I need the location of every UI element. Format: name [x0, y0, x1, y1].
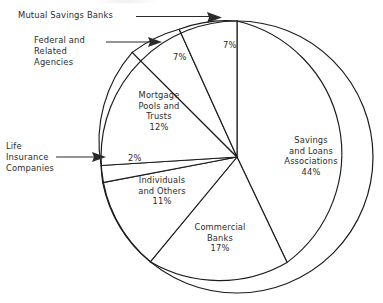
individuals-line-1: Individuals	[122, 175, 202, 186]
callout-federal-and-related-agencies: Federal and Related Agencies	[34, 35, 85, 67]
callout-federal-line-1: Federal and	[34, 35, 85, 46]
slice-label-individuals-and-others: Individuals and Others 11%	[122, 175, 202, 207]
individuals-line-2: and Others	[122, 186, 202, 197]
callout-federal-line-3: Agencies	[34, 57, 85, 68]
callout-life-line-2: Insurance	[6, 152, 54, 163]
savings-percent: 44%	[268, 167, 354, 178]
slice-label-mortgage-pools-and-trusts: Mortgage Pools and Trusts 12%	[122, 90, 196, 132]
mortgage-percent: 12%	[122, 122, 196, 133]
slice-percent-federal-and-related-agencies: 7%	[173, 52, 186, 62]
savings-line-3: Associations	[268, 156, 354, 167]
mortgage-line-2: Pools and	[122, 101, 196, 112]
commercial-line-1: Commercial	[181, 222, 259, 233]
slice-label-savings-and-loans-associations: Savings and Loans Associations 44%	[268, 135, 354, 177]
callout-life-line-1: Life	[6, 141, 54, 152]
slice-label-commercial-banks: Commercial Banks 17%	[181, 222, 259, 254]
callout-federal-line-2: Related	[34, 46, 85, 57]
slice-percent-life-insurance-companies: 2%	[128, 153, 141, 163]
pie-chart: Mutual Savings Banks Federal and Related…	[0, 0, 383, 303]
slice-percent-mutual-savings-banks: 7%	[223, 40, 236, 50]
callout-mutual-savings-banks-label: Mutual Savings Banks	[18, 10, 113, 20]
savings-line-1: Savings	[268, 135, 354, 146]
mortgage-line-3: Trusts	[122, 111, 196, 122]
commercial-percent: 17%	[181, 243, 259, 254]
callout-mutual-savings-banks: Mutual Savings Banks	[18, 10, 113, 21]
mortgage-line-1: Mortgage	[122, 90, 196, 101]
commercial-line-2: Banks	[181, 233, 259, 244]
individuals-percent: 11%	[122, 196, 202, 207]
callout-life-line-3: Companies	[6, 163, 54, 174]
savings-line-2: and Loans	[268, 146, 354, 157]
callout-life-insurance-companies: Life Insurance Companies	[6, 141, 54, 173]
